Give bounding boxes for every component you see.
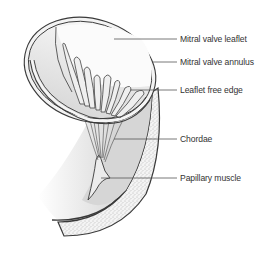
mitral-valve-diagram: Mitral valve leaflet Mitral valve annulu… xyxy=(0,0,267,254)
label-leaflet-free-edge: Leaflet free edge xyxy=(180,85,243,95)
label-chordae: Chordae xyxy=(180,134,212,144)
label-mitral-valve-leaflet: Mitral valve leaflet xyxy=(180,34,247,44)
label-mitral-valve-annulus: Mitral valve annulus xyxy=(180,57,254,67)
label-papillary-muscle: Papillary muscle xyxy=(180,173,241,183)
